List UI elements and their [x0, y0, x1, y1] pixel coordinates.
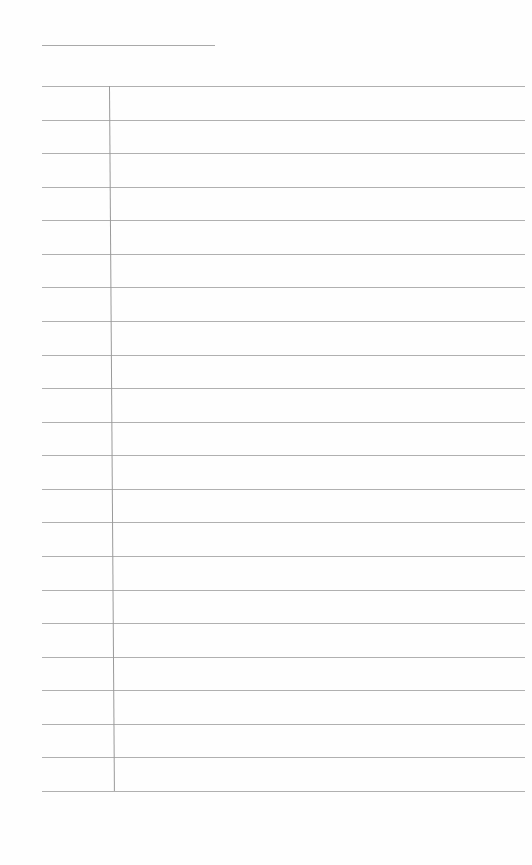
- lined-paper-page: [0, 0, 532, 865]
- ruled-line: [42, 86, 525, 87]
- ruled-line: [42, 388, 525, 389]
- ruled-line: [42, 120, 525, 121]
- ruled-line: [42, 321, 525, 322]
- title-line: [42, 45, 215, 46]
- ruled-line: [42, 623, 525, 624]
- ruled-line: [42, 187, 525, 188]
- ruled-line: [42, 153, 525, 154]
- ruled-line: [42, 220, 525, 221]
- ruled-line: [42, 522, 525, 523]
- margin-line: [109, 86, 115, 791]
- ruled-line: [42, 355, 525, 356]
- ruled-line: [42, 556, 525, 557]
- ruled-line: [42, 422, 525, 423]
- ruled-line: [42, 590, 525, 591]
- ruled-line: [42, 690, 525, 691]
- ruled-line: [42, 254, 525, 255]
- ruled-line: [42, 657, 525, 658]
- ruled-line: [42, 791, 525, 792]
- ruled-line: [42, 489, 525, 490]
- ruled-line: [42, 455, 525, 456]
- ruled-line: [42, 287, 525, 288]
